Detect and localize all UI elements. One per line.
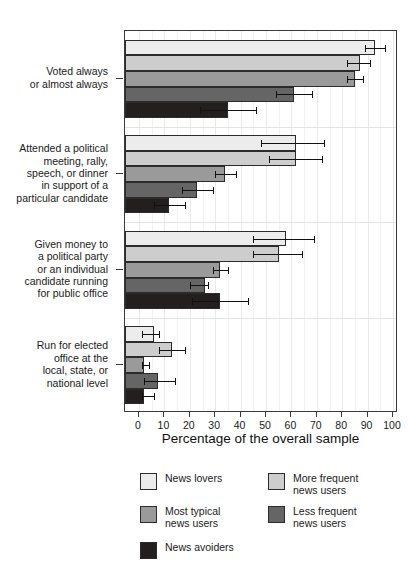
error-bar-cap bbox=[228, 267, 229, 274]
legend-item[interactable]: More frequent news users bbox=[268, 472, 358, 496]
x-axis-tick bbox=[189, 412, 190, 417]
error-bar-cap bbox=[269, 156, 270, 163]
x-axis-tick-label: 100 bbox=[377, 419, 407, 431]
bars-layer bbox=[125, 31, 396, 411]
error-bar-cap bbox=[324, 140, 325, 147]
error-bar bbox=[200, 110, 256, 111]
error-bar bbox=[142, 396, 155, 397]
error-bar-cap bbox=[236, 171, 237, 178]
error-bar-cap bbox=[276, 91, 277, 98]
y-axis-category-label: Attended a politicalmeeting, rally,speec… bbox=[0, 142, 108, 204]
error-bar bbox=[253, 254, 301, 255]
error-bar-cap bbox=[215, 171, 216, 178]
legend-item[interactable]: Less frequent news users bbox=[268, 505, 357, 529]
bar bbox=[125, 166, 225, 182]
error-bar bbox=[213, 270, 228, 271]
y-axis-label-line: particular candidate bbox=[0, 192, 108, 204]
y-axis-label-line: Attended a political bbox=[0, 142, 108, 154]
error-bar-cap bbox=[363, 76, 364, 83]
legend-label: News lovers bbox=[165, 472, 222, 484]
error-bar-cap bbox=[175, 378, 176, 385]
y-axis-label-line: speech, or dinner bbox=[0, 167, 108, 179]
y-axis-category-label: Voted alwaysor almost always bbox=[0, 65, 108, 90]
error-bar-cap bbox=[314, 236, 315, 243]
y-axis-label-line: for public office bbox=[0, 287, 108, 299]
x-axis-tick bbox=[265, 412, 266, 417]
y-axis-label-line: in support of a bbox=[0, 179, 108, 191]
error-bar bbox=[182, 190, 212, 191]
error-bar bbox=[192, 301, 248, 302]
bar bbox=[125, 87, 294, 103]
y-axis-label-line: Given money to bbox=[0, 238, 108, 250]
x-axis-title: Percentage of the overall sample bbox=[124, 431, 397, 446]
y-axis-label-line: a political party bbox=[0, 250, 108, 262]
x-axis-tick bbox=[316, 412, 317, 417]
legend-item[interactable]: Most typical news users bbox=[140, 505, 220, 529]
error-bar bbox=[190, 285, 208, 286]
x-axis-tick bbox=[163, 412, 164, 417]
x-axis: 0102030405060708090100 bbox=[124, 412, 397, 413]
bar bbox=[125, 40, 375, 56]
error-bar-cap bbox=[144, 378, 145, 385]
error-bar-cap bbox=[154, 202, 155, 209]
error-bar bbox=[154, 205, 184, 206]
x-axis-tick bbox=[392, 412, 393, 417]
legend-color-swatch bbox=[140, 506, 157, 523]
error-bar bbox=[142, 334, 160, 335]
x-axis-tick bbox=[138, 412, 139, 417]
error-bar-cap bbox=[302, 251, 303, 258]
x-axis-tick bbox=[367, 412, 368, 417]
error-bar-cap bbox=[253, 251, 254, 258]
error-bar-cap bbox=[248, 298, 249, 305]
legend-item[interactable]: News avoiders bbox=[140, 541, 234, 559]
legend-label: Less frequent news users bbox=[293, 505, 357, 529]
x-axis-tick bbox=[214, 412, 215, 417]
y-axis-label-line: Run for elected bbox=[0, 339, 108, 351]
error-bar-cap bbox=[190, 282, 191, 289]
x-axis-tick bbox=[341, 412, 342, 417]
y-axis-label-line: meeting, rally, bbox=[0, 155, 108, 167]
error-bar-cap bbox=[208, 282, 209, 289]
y-axis-label-line: or an individual bbox=[0, 263, 108, 275]
legend-color-swatch bbox=[140, 542, 157, 559]
error-bar bbox=[347, 79, 362, 80]
legend-color-swatch bbox=[268, 506, 285, 523]
legend-color-swatch bbox=[268, 473, 285, 490]
error-bar-cap bbox=[142, 331, 143, 338]
x-axis-tick bbox=[240, 412, 241, 417]
error-bar-cap bbox=[142, 362, 143, 369]
y-axis-label-line: or almost always bbox=[0, 78, 108, 90]
y-axis-category-label: Given money toa political partyor an ind… bbox=[0, 238, 108, 300]
error-bar-cap bbox=[312, 91, 313, 98]
y-axis-tick bbox=[116, 364, 123, 365]
bar bbox=[125, 262, 220, 278]
error-bar bbox=[253, 239, 314, 240]
legend-item[interactable]: News lovers bbox=[140, 472, 222, 490]
error-bar-cap bbox=[322, 156, 323, 163]
error-bar bbox=[365, 48, 385, 49]
error-bar bbox=[269, 159, 322, 160]
y-axis-tick bbox=[116, 78, 123, 79]
y-axis-tick bbox=[116, 269, 123, 270]
error-bar-cap bbox=[347, 76, 348, 83]
y-axis-category-labels: Voted alwaysor almost alwaysAttended a p… bbox=[0, 30, 116, 412]
y-axis-label-line: Voted always bbox=[0, 65, 108, 77]
error-bar-cap bbox=[142, 393, 143, 400]
error-bar-cap bbox=[213, 267, 214, 274]
error-bar-cap bbox=[185, 202, 186, 209]
y-axis-category-label: Run for electedoffice at thelocal, state… bbox=[0, 339, 108, 389]
y-axis-label-line: national level bbox=[0, 377, 108, 389]
error-bar-cap bbox=[149, 362, 150, 369]
error-bar-cap bbox=[253, 236, 254, 243]
y-axis-label-line: office at the bbox=[0, 352, 108, 364]
error-bar-cap bbox=[256, 107, 257, 114]
error-bar-cap bbox=[154, 393, 155, 400]
error-bar-cap bbox=[192, 298, 193, 305]
legend-label: More frequent news users bbox=[293, 472, 358, 496]
error-bar bbox=[142, 365, 150, 366]
y-axis-label-line: local, state, or bbox=[0, 364, 108, 376]
error-bar-cap bbox=[385, 45, 386, 52]
x-axis-tick bbox=[290, 412, 291, 417]
error-bar-cap bbox=[200, 107, 201, 114]
error-bar-cap bbox=[347, 60, 348, 67]
